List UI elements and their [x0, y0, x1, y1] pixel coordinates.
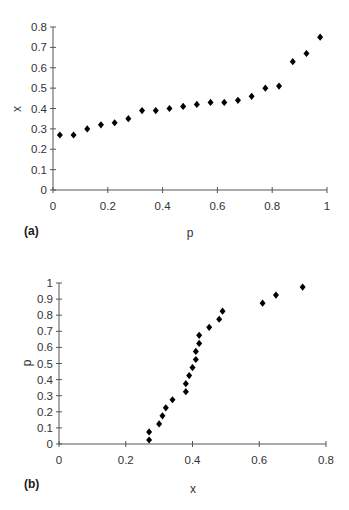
y-tick-label: 0.3 [37, 390, 53, 402]
data-point-diamond [235, 97, 241, 104]
x-tick-label: 0.8 [264, 200, 280, 212]
y-tick-label: 0.6 [31, 62, 47, 74]
data-point-diamond [221, 99, 227, 106]
data-point-diamond [57, 131, 63, 138]
data-point-diamond [303, 50, 309, 57]
y-tick-label: 0.1 [37, 422, 53, 434]
data-point-diamond [273, 291, 279, 298]
data-point-diamond [146, 436, 152, 443]
chart-a-axes: 00.20.40.60.8100.10.20.30.40.50.60.70.8 [31, 21, 330, 212]
data-point-diamond [166, 105, 172, 112]
y-tick-label: 0.2 [31, 143, 47, 155]
x-tick-label: 0 [50, 200, 56, 212]
x-tick-label: 0.4 [185, 454, 202, 466]
figure: 00.20.40.60.8100.10.20.30.40.50.60.70.8 … [0, 0, 349, 510]
data-point-diamond [206, 324, 212, 331]
data-point-diamond [146, 428, 152, 435]
chart-a-xlabel: p [187, 226, 194, 240]
data-point-diamond [180, 103, 186, 110]
data-point-diamond [220, 308, 226, 315]
chart-b-xlabel: x [190, 482, 196, 496]
y-tick-label: 0.7 [31, 41, 47, 53]
y-tick-label: 0.4 [37, 374, 54, 386]
x-tick-label: 0 [56, 454, 62, 466]
x-tick-label: 0.6 [251, 454, 267, 466]
chart-b: 00.20.40.60.800.10.20.30.40.50.60.70.80.… [20, 277, 334, 496]
data-point-diamond [300, 283, 306, 290]
data-point-diamond [216, 316, 222, 323]
y-tick-label: 0.5 [37, 358, 53, 370]
data-point-diamond [190, 364, 196, 371]
data-point-diamond [156, 420, 162, 427]
chart-b-points [146, 283, 306, 443]
chart-a-panel-label: (a) [24, 224, 39, 238]
chart-a-points [57, 34, 323, 139]
data-point-diamond [159, 412, 165, 419]
data-point-diamond [98, 121, 104, 128]
data-point-diamond [193, 348, 199, 355]
y-tick-label: 0.2 [37, 406, 53, 418]
x-tick-label: 0.4 [155, 200, 172, 212]
y-tick-label: 0.3 [31, 123, 47, 135]
y-tick-label: 0.8 [31, 21, 47, 33]
y-tick-label: 0.9 [37, 293, 53, 305]
data-point-diamond [290, 58, 296, 65]
x-tick-label: 1 [324, 200, 330, 212]
y-tick-label: 0.8 [37, 309, 53, 321]
data-point-diamond [196, 340, 202, 347]
x-tick-label: 0.2 [100, 200, 116, 212]
chart-b-panel-label: (b) [24, 477, 39, 491]
chart-b-axes: 00.20.40.60.800.10.20.30.40.50.60.70.80.… [37, 277, 334, 466]
data-point-diamond [193, 356, 199, 363]
x-tick-label: 0.8 [318, 454, 334, 466]
chart-a: 00.20.40.60.8100.10.20.30.40.50.60.70.8 … [10, 21, 330, 240]
chart-b-ylabel: p [20, 359, 34, 366]
data-point-diamond [84, 125, 90, 132]
y-tick-label: 0.1 [31, 164, 47, 176]
y-tick-label: 0.6 [37, 341, 53, 353]
data-point-diamond [262, 85, 268, 92]
data-point-diamond [112, 119, 118, 126]
y-tick-label: 1 [47, 277, 53, 289]
data-point-diamond [183, 380, 189, 387]
data-point-diamond [169, 396, 175, 403]
y-tick-label: 0 [41, 184, 47, 196]
data-point-diamond [125, 115, 131, 122]
data-point-diamond [139, 107, 145, 114]
data-point-diamond [183, 388, 189, 395]
data-point-diamond [186, 372, 192, 379]
data-point-diamond [317, 34, 323, 41]
chart-a-ylabel: x [10, 106, 24, 112]
y-tick-label: 0.5 [31, 82, 47, 94]
data-point-diamond [260, 300, 266, 307]
y-tick-label: 0 [47, 438, 53, 450]
data-point-diamond [208, 99, 214, 106]
y-tick-label: 0.7 [37, 325, 53, 337]
data-point-diamond [249, 93, 255, 100]
x-tick-label: 0.6 [209, 200, 225, 212]
data-point-diamond [194, 101, 200, 108]
x-tick-label: 0.2 [118, 454, 134, 466]
data-point-diamond [163, 404, 169, 411]
data-point-diamond [153, 107, 159, 114]
y-tick-label: 0.4 [31, 103, 48, 115]
data-point-diamond [196, 332, 202, 339]
data-point-diamond [71, 131, 77, 138]
data-point-diamond [276, 82, 282, 89]
